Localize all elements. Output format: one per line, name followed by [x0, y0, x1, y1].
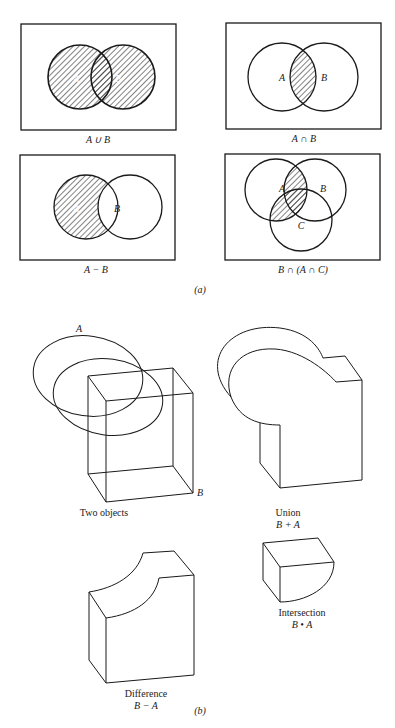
caption-intersection: A ∩ B — [292, 133, 316, 145]
venn-triple-panel — [225, 154, 380, 260]
union-solid-drawing — [218, 327, 362, 488]
part-b-label: (b) — [194, 705, 206, 717]
intersection-solid-drawing — [263, 538, 334, 602]
set-label-a: A — [279, 183, 285, 194]
venn-union-panel — [21, 24, 176, 130]
caption-intersection-title: Intersection — [278, 607, 325, 619]
set-label-b: B — [114, 203, 120, 214]
diagram-canvas — [0, 0, 395, 728]
set-label-a: A — [73, 203, 79, 214]
venn-difference-panel — [20, 155, 175, 260]
caption-difference: A − B — [84, 264, 108, 276]
object-b-label: B — [197, 487, 203, 498]
venn-intersection-panel — [226, 23, 381, 129]
set-label-b: B — [321, 72, 327, 83]
set-label-c: C — [298, 220, 305, 231]
part-a-label: (a) — [194, 284, 206, 296]
caption-union-expr: B + A — [276, 519, 300, 531]
caption-union: A ∪ B — [86, 134, 110, 146]
caption-difference-expr: B − A — [134, 700, 158, 712]
set-label-a: A — [73, 73, 79, 84]
object-a-label: A — [76, 323, 82, 334]
caption-intersection-expr: B • A — [292, 619, 313, 631]
caption-two-objects: Two objects — [80, 507, 128, 519]
set-label-b: B — [320, 183, 326, 194]
two-objects-drawing — [28, 329, 193, 502]
set-label-a: A — [279, 72, 285, 83]
difference-solid-drawing — [89, 551, 194, 683]
caption-triple: B ∩ (A ∩ C) — [278, 264, 328, 276]
caption-union-title: Union — [276, 507, 301, 519]
set-label-b: B — [115, 73, 121, 84]
caption-difference-title: Difference — [125, 688, 168, 700]
